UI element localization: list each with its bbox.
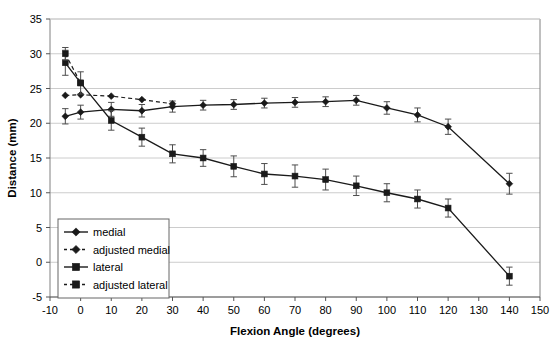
data-point-square xyxy=(384,190,390,196)
chart-background xyxy=(0,0,556,352)
data-point-square xyxy=(415,196,421,202)
x-tick-label: 140 xyxy=(500,304,518,316)
y-tick-label: -5 xyxy=(32,291,42,303)
y-tick-label: 15 xyxy=(30,152,42,164)
x-tick-label: -10 xyxy=(42,304,58,316)
x-tick-label: 40 xyxy=(197,304,209,316)
x-tick-label: 20 xyxy=(136,304,148,316)
x-tick-label: 90 xyxy=(350,304,362,316)
data-point-square xyxy=(323,177,329,183)
y-tick-label: 30 xyxy=(30,48,42,60)
legend-label: lateral xyxy=(93,261,123,273)
y-tick-label: 0 xyxy=(36,256,42,268)
data-point-square xyxy=(445,205,451,211)
y-axis-title: Distance (mm) xyxy=(6,118,18,197)
x-tick-label: 130 xyxy=(470,304,488,316)
x-tick-label: 120 xyxy=(439,304,457,316)
x-tick-label: 0 xyxy=(78,304,84,316)
x-axis-title: Flexion Angle (degrees) xyxy=(230,325,360,337)
line-chart: -100102030405060708090100110120130140150… xyxy=(0,0,556,352)
data-point-square xyxy=(108,118,114,124)
y-tick-label: 25 xyxy=(30,83,42,95)
data-point-square xyxy=(292,173,298,179)
x-tick-label: 110 xyxy=(409,304,427,316)
x-tick-label: 60 xyxy=(258,304,270,316)
legend-label: adjusted lateral xyxy=(93,279,168,291)
data-point-square xyxy=(62,60,68,66)
chart-figure: -100102030405060708090100110120130140150… xyxy=(0,0,556,352)
data-point-square xyxy=(72,281,79,288)
data-point-square xyxy=(200,155,206,161)
legend-label: medial xyxy=(93,226,125,238)
data-point-square xyxy=(62,51,68,57)
y-tick-label: 5 xyxy=(36,222,42,234)
chart-legend: medialadjusted mediallateraladjusted lat… xyxy=(58,219,170,298)
data-point-square xyxy=(139,134,145,140)
x-tick-label: 100 xyxy=(378,304,396,316)
x-tick-label: 10 xyxy=(105,304,117,316)
x-tick-label: 70 xyxy=(289,304,301,316)
data-point-square xyxy=(72,263,79,270)
legend-label: adjusted medial xyxy=(93,244,170,256)
x-tick-label: 50 xyxy=(228,304,240,316)
data-point-square xyxy=(170,151,176,157)
data-point-square xyxy=(261,171,267,177)
y-tick-label: 35 xyxy=(30,13,42,25)
y-tick-label: 20 xyxy=(30,117,42,129)
data-point-square xyxy=(78,80,84,86)
x-tick-label: 30 xyxy=(166,304,178,316)
x-tick-label: 80 xyxy=(320,304,332,316)
data-point-square xyxy=(353,183,359,189)
data-point-square xyxy=(231,163,237,169)
y-tick-label: 10 xyxy=(30,187,42,199)
x-tick-label: 150 xyxy=(531,304,549,316)
data-point-square xyxy=(506,273,512,279)
